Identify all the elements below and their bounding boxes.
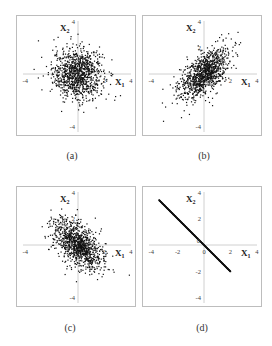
caption-d: (d) xyxy=(196,322,208,333)
y-tick-label: -4 xyxy=(196,294,202,301)
plot-area-b: -42442-4X1X2 xyxy=(143,16,263,137)
x-tick-label: -2 xyxy=(175,248,180,255)
y-tick-label: 4 xyxy=(198,189,202,196)
x-tick-label: -4 xyxy=(22,248,28,255)
caption-c: (c) xyxy=(64,322,75,333)
x-axis-label: X1 xyxy=(115,77,125,88)
y-tick-label: -4 xyxy=(70,123,76,130)
data-points xyxy=(34,34,122,113)
plot-area-c: -42442-4X1X2 xyxy=(17,187,137,308)
x-tick-label: -4 xyxy=(22,77,28,84)
x-tick-label: 4 xyxy=(129,77,133,84)
x-tick-label: 2 xyxy=(103,248,106,255)
caption-b: (b) xyxy=(198,150,210,161)
y-axis-label: X2 xyxy=(186,23,196,34)
x-tick-label: 2 xyxy=(229,248,232,255)
x-tick-label: 2 xyxy=(103,77,106,84)
x-axis-label: X1 xyxy=(241,77,251,88)
y-tick-label: 2 xyxy=(198,44,201,51)
scatter-panel-c: -42442-4X1X2 xyxy=(16,186,136,307)
data-points xyxy=(158,199,231,272)
plot-area-a: -4244-4X1X2 xyxy=(17,16,137,137)
x-tick-label: 2 xyxy=(229,77,232,84)
scatter-panel-b: -42442-4X1X2 xyxy=(142,15,262,136)
y-tick-label: -4 xyxy=(196,123,202,130)
y-tick-label: 4 xyxy=(72,18,76,25)
y-tick-label: 2 xyxy=(72,215,75,222)
x-axis-label: X1 xyxy=(115,248,125,259)
plot-area-d: -4-2024420-2-4X1X2 xyxy=(143,187,263,308)
scatter-panel-a: -4244-4X1X2 xyxy=(16,15,136,136)
y-tick-label: 4 xyxy=(198,18,202,25)
x-tick-label: -4 xyxy=(148,77,154,84)
x-tick-label: 0 xyxy=(202,248,205,255)
caption-a: (a) xyxy=(66,150,77,161)
y-tick-label: -4 xyxy=(70,294,76,301)
y-tick-label: -2 xyxy=(196,268,201,275)
y-axis-label: X2 xyxy=(60,194,70,205)
scatter-panel-d: -4-2024420-2-4X1X2 xyxy=(142,186,262,307)
y-tick-label: 2 xyxy=(198,215,201,222)
x-tick-label: 4 xyxy=(255,248,259,255)
x-tick-label: 4 xyxy=(255,77,259,84)
y-tick-label: 0 xyxy=(197,237,200,244)
y-tick-label: 4 xyxy=(72,189,76,196)
x-tick-label: -4 xyxy=(148,248,154,255)
y-axis-label: X2 xyxy=(60,23,70,34)
x-tick-label: 4 xyxy=(129,248,133,255)
x-axis-label: X1 xyxy=(241,248,251,259)
y-axis-label: X2 xyxy=(186,194,196,205)
